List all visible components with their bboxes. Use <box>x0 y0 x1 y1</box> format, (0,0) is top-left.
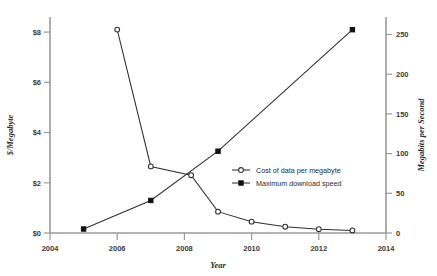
data-point-marker <box>350 228 355 233</box>
x-tick-label: 2006 <box>109 244 126 253</box>
right-tick-label: 200 <box>396 70 409 79</box>
left-tick-label: $0 <box>33 229 41 238</box>
data-point-marker <box>316 227 321 232</box>
left-tick-label: $4 <box>33 128 42 137</box>
data-point-marker <box>115 27 120 32</box>
right-tick-label: 100 <box>396 149 409 158</box>
line-chart: $0$2$4$6$8 050100150200250 2004200620082… <box>0 0 437 276</box>
data-point-marker <box>283 224 288 229</box>
data-point-marker <box>149 198 153 202</box>
right-axis-title: Megabits per Second <box>416 98 426 173</box>
data-point-marker <box>249 219 254 224</box>
data-point-marker <box>81 227 85 231</box>
right-tick-label: 50 <box>396 189 404 198</box>
data-point-marker <box>189 173 194 178</box>
legend-label: Cost of data per megabyte <box>256 166 341 175</box>
x-tick-label: 2004 <box>42 244 60 253</box>
x-axis-title: Year <box>210 260 226 270</box>
x-tick-label: 2010 <box>243 244 260 253</box>
left-tick-label: $6 <box>33 78 41 87</box>
left-tick-label: $8 <box>33 28 41 37</box>
legend-label: Maximum download speed <box>256 179 342 188</box>
data-point-marker <box>350 28 354 32</box>
data-point-marker <box>216 209 221 214</box>
x-tick-label: 2012 <box>310 244 327 253</box>
right-tick-label: 150 <box>396 110 409 119</box>
left-axis-title: $/Megabyte <box>5 114 15 156</box>
legend-marker <box>239 181 243 185</box>
left-tick-label: $2 <box>33 179 41 188</box>
legend-marker <box>239 168 244 173</box>
data-point-marker <box>216 149 220 153</box>
x-tick-label: 2014 <box>378 244 396 253</box>
x-tick-label: 2008 <box>176 244 193 253</box>
right-tick-label: 250 <box>396 30 409 39</box>
right-tick-label: 0 <box>396 229 400 238</box>
data-point-marker <box>148 164 153 169</box>
chart-background <box>0 0 437 276</box>
chart-container: $0$2$4$6$8 050100150200250 2004200620082… <box>0 0 437 276</box>
